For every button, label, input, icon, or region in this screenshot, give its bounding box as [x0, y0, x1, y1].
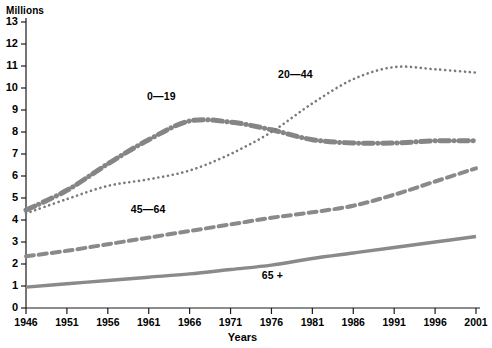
- y-tick-label: 7: [0, 147, 18, 159]
- series-label-0: 0—19: [147, 90, 176, 102]
- series-line-2: [26, 168, 476, 256]
- y-tick-label: 5: [0, 191, 18, 203]
- y-tick-label: 3: [0, 235, 18, 247]
- y-tick-label: 13: [0, 15, 18, 27]
- y-tick-label: 10: [0, 81, 18, 93]
- series-line-3: [26, 237, 476, 288]
- x-tick-label: 2001: [451, 316, 492, 328]
- y-tick-label: 11: [0, 59, 18, 71]
- series-label-2: 45—64: [131, 203, 166, 215]
- y-tick-label: 4: [0, 213, 18, 225]
- y-tick-label: 0: [0, 301, 18, 313]
- y-tick-label: 12: [0, 37, 18, 49]
- y-tick-label: 6: [0, 169, 18, 181]
- series-label-1: 20—44: [278, 68, 313, 80]
- y-tick-label: 9: [0, 103, 18, 115]
- y-tick-label: 2: [0, 257, 18, 269]
- y-tick-label: 8: [0, 125, 18, 137]
- series-line-0: [26, 120, 476, 210]
- y-tick-label: 1: [0, 279, 18, 291]
- x-axis-title: Years: [0, 331, 485, 343]
- series-label-3: 65 +: [262, 269, 284, 281]
